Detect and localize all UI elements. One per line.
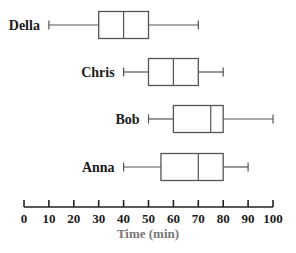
tick-label: 100 bbox=[263, 211, 283, 226]
box-bob: Bob bbox=[115, 106, 273, 133]
tick-label: 60 bbox=[167, 211, 180, 226]
iqr-box bbox=[173, 106, 223, 133]
tick-label: 80 bbox=[217, 211, 230, 226]
boxplot-chart: DellaChrisBobAnna 0102030405060708090100… bbox=[0, 0, 296, 253]
tick-label: 30 bbox=[92, 211, 105, 226]
box-chris: Chris bbox=[81, 59, 223, 86]
tick-label: 40 bbox=[117, 211, 130, 226]
category-label: Anna bbox=[82, 160, 115, 175]
category-label: Della bbox=[9, 18, 40, 33]
x-axis-label: Time (min) bbox=[117, 226, 179, 241]
x-axis: 0102030405060708090100 bbox=[21, 200, 283, 226]
box-della: Della bbox=[9, 12, 199, 39]
tick-label: 0 bbox=[21, 211, 28, 226]
category-label: Chris bbox=[81, 65, 115, 80]
tick-label: 70 bbox=[192, 211, 205, 226]
boxes-group: DellaChrisBobAnna bbox=[9, 12, 273, 181]
tick-label: 90 bbox=[242, 211, 255, 226]
category-label: Bob bbox=[115, 112, 139, 127]
tick-label: 20 bbox=[67, 211, 80, 226]
iqr-box bbox=[161, 154, 223, 181]
tick-label: 50 bbox=[142, 211, 155, 226]
box-anna: Anna bbox=[82, 154, 248, 181]
tick-label: 10 bbox=[42, 211, 55, 226]
